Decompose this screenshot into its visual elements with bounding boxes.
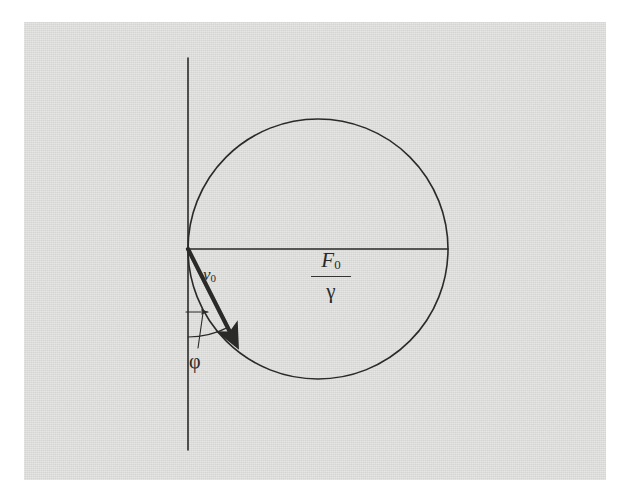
velocity-label-subscript: 0: [211, 272, 217, 284]
figure-root: F0 γ v0 φ: [0, 0, 639, 498]
fraction-denominator: γ: [296, 281, 366, 302]
fraction-bar: [311, 276, 351, 277]
angle-label-phi: φ: [189, 351, 201, 371]
velocity-label-symbol: v: [203, 265, 211, 284]
fraction-numerator-symbol: F: [321, 248, 334, 272]
diagram-canvas: [0, 0, 639, 498]
fraction-numerator-subscript: 0: [334, 257, 341, 272]
velocity-label-v0: v0: [203, 266, 216, 284]
fraction-label-f0-over-gamma: F0 γ: [296, 250, 366, 302]
fraction-numerator: F0: [296, 250, 366, 271]
phi-leader-line: [198, 313, 203, 348]
